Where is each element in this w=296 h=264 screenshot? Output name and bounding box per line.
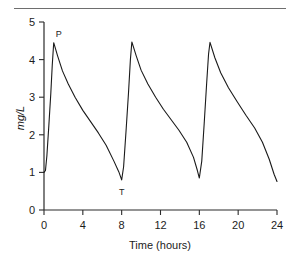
concentration-vs-time-chart: 012345 04812162024 PT Time (hours) mg/L [0,0,296,264]
x-axis-ticks [44,210,277,215]
x-tick-label-20: 20 [232,219,244,231]
annotation-peak: P [56,29,62,39]
x-tick-label-16: 16 [193,219,205,231]
y-tick-label-4: 4 [29,54,35,66]
x-tick-label-4: 4 [80,219,86,231]
x-tick-label-8: 8 [119,219,125,231]
x-axis-title: Time (hours) [129,239,191,251]
x-axis-tick-labels: 04812162024 [41,219,283,231]
x-tick-label-24: 24 [271,219,283,231]
y-axis-ticks [39,22,44,210]
curve-annotations: PT [56,29,125,197]
concentration-curve [44,42,277,181]
chart-figure: 012345 04812162024 PT Time (hours) mg/L [0,0,296,264]
y-tick-label-3: 3 [29,91,35,103]
y-tick-label-2: 2 [29,129,35,141]
y-axis-tick-labels: 012345 [29,16,35,216]
y-axis-title: mg/L [14,106,26,130]
x-tick-label-12: 12 [154,219,166,231]
y-tick-label-0: 0 [29,204,35,216]
annotation-trough: T [119,187,125,197]
x-tick-label-0: 0 [41,219,47,231]
y-tick-label-1: 1 [29,166,35,178]
y-tick-label-5: 5 [29,16,35,28]
